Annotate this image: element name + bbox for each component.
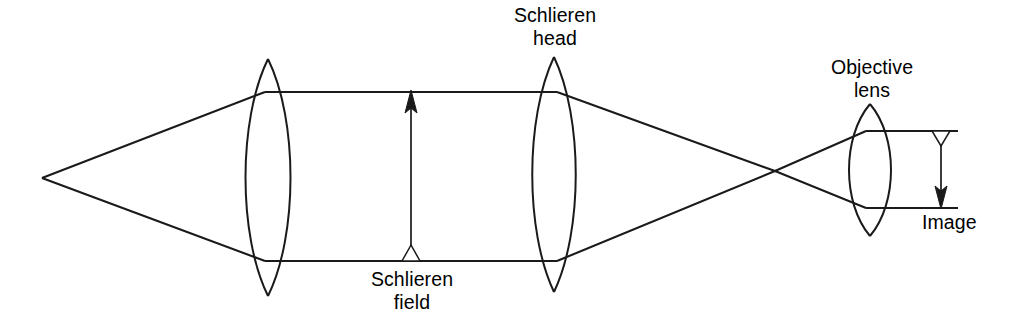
label-image-line1: Image — [922, 211, 977, 234]
source-cone-rays — [42, 92, 265, 261]
label-image: Image — [922, 211, 977, 234]
objective-lens-right-arc — [870, 104, 891, 236]
schlieren-field-arrow — [402, 90, 420, 261]
label-schlieren-head: Schlieren head — [514, 4, 596, 50]
objective-lens — [849, 104, 891, 236]
label-schlieren-head-line2: head — [514, 27, 596, 50]
source-ray-upper — [42, 92, 265, 178]
optical-ray-diagram-canvas — [0, 0, 1010, 326]
label-schlieren-head-line1: Schlieren — [514, 4, 596, 27]
label-objective-lens-line2: lens — [831, 79, 913, 102]
crossing-ray-from-top — [557, 92, 866, 208]
image-arrow — [932, 131, 950, 209]
image-arrow-base-icon — [932, 131, 950, 146]
schlieren-field-arrow-base-icon — [402, 245, 420, 261]
label-objective-lens: Objective lens — [831, 56, 913, 102]
label-objective-lens-line1: Objective — [831, 56, 913, 79]
objective-lens-left-arc — [849, 104, 870, 236]
converging-crossing-rays — [557, 92, 866, 261]
label-schlieren-field-line1: Schlieren — [371, 268, 453, 291]
source-ray-lower — [42, 178, 265, 261]
label-schlieren-field: Schlieren field — [371, 268, 453, 314]
schlieren-diagram: Schlieren head Schlieren field Objective… — [0, 0, 1010, 326]
label-schlieren-field-line2: field — [371, 291, 453, 314]
crossing-ray-from-bottom — [557, 131, 866, 261]
